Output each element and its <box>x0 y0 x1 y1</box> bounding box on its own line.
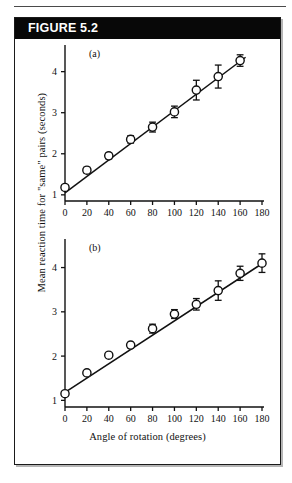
data-point-a-8 <box>236 56 244 64</box>
x-tick-label-b-7: 140 <box>211 413 226 424</box>
page-top-rule <box>14 6 286 7</box>
y-tick-label-b-3: 4 <box>52 262 57 273</box>
x-tick-label-b-1: 20 <box>82 413 92 424</box>
x-tick-label-a-9: 180 <box>255 207 270 218</box>
y-tick-label-b-1: 2 <box>52 351 57 362</box>
data-point-a-6 <box>192 86 200 94</box>
x-tick-label-b-6: 120 <box>189 413 204 424</box>
x-tick-label-a-0: 0 <box>63 207 68 218</box>
data-point-b-6 <box>192 300 200 308</box>
figure-number-label: FIGURE 5.2 <box>28 21 98 36</box>
data-point-b-7 <box>214 286 222 294</box>
data-point-b-8 <box>236 269 244 277</box>
x-tick-label-b-0: 0 <box>63 413 68 424</box>
data-point-b-2 <box>105 351 113 359</box>
x-tick-label-a-7: 140 <box>211 207 226 218</box>
data-point-b-5 <box>170 310 178 318</box>
x-tick-label-a-3: 60 <box>126 207 136 218</box>
data-point-b-1 <box>83 369 91 377</box>
x-tick-label-a-2: 40 <box>104 207 114 218</box>
data-point-b-3 <box>127 341 135 349</box>
y-tick-label-a-1: 2 <box>52 148 57 159</box>
panel-label-b: (b) <box>89 242 101 254</box>
y-tick-label-b-2: 3 <box>52 306 57 317</box>
figure-page: FIGURE 5.2 Mean reaction time for "same"… <box>0 0 292 483</box>
figure-caption-banner: FIGURE 5.2 <box>15 18 280 39</box>
x-tick-label-a-6: 120 <box>189 207 204 218</box>
y-tick-label-b-0: 1 <box>52 395 57 406</box>
figure-box: FIGURE 5.2 Mean reaction time for "same"… <box>14 17 281 465</box>
fit-line-b <box>65 262 264 392</box>
y-tick-label-a-3: 4 <box>52 66 57 77</box>
x-tick-label-a-4: 80 <box>148 207 158 218</box>
data-point-b-9 <box>258 259 266 267</box>
charts-svg-canvas: 1234020406080100120140160180(a)123402040… <box>15 39 279 439</box>
data-point-a-4 <box>148 123 156 131</box>
chart-panel-a: 1234020406080100120140160180(a) <box>52 45 270 218</box>
x-tick-label-b-5: 100 <box>167 413 182 424</box>
data-point-a-2 <box>105 152 113 160</box>
plot-stack: Mean reaction time for "same" pairs (sec… <box>15 39 280 466</box>
x-tick-label-a-8: 160 <box>233 207 248 218</box>
y-tick-label-a-2: 3 <box>52 107 57 118</box>
y-tick-label-a-0: 1 <box>52 189 57 200</box>
data-point-a-3 <box>127 135 135 143</box>
x-tick-label-b-9: 180 <box>255 413 270 424</box>
x-tick-label-b-2: 40 <box>104 413 114 424</box>
data-point-b-4 <box>148 325 156 333</box>
x-tick-label-a-5: 100 <box>167 207 182 218</box>
x-tick-label-b-4: 80 <box>148 413 158 424</box>
data-point-a-7 <box>214 72 222 80</box>
x-axis-title: Angle of rotation (degrees) <box>15 431 280 442</box>
data-point-a-1 <box>83 166 91 174</box>
chart-panel-b: 1234020406080100120140160180(b) <box>52 239 270 424</box>
x-tick-label-b-8: 160 <box>233 413 248 424</box>
x-tick-label-b-3: 60 <box>126 413 136 424</box>
data-point-a-0 <box>61 183 69 191</box>
panel-label-a: (a) <box>89 48 100 60</box>
x-tick-label-a-1: 20 <box>82 207 92 218</box>
data-point-a-5 <box>170 108 178 116</box>
data-point-b-0 <box>61 390 69 398</box>
